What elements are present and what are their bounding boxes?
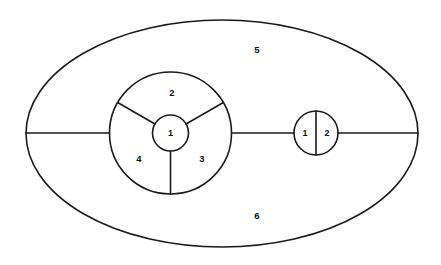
spoke-upper-right — [186, 103, 223, 125]
face-label-2: 2 — [169, 87, 174, 98]
face-label-5: 5 — [254, 44, 260, 55]
face-label-3: 3 — [199, 153, 204, 164]
right-circle-label-1: 1 — [302, 128, 307, 138]
diagram-canvas: 2 4 3 5 6 1 1 2 — [0, 0, 441, 265]
spoke-upper-left — [118, 103, 155, 125]
face-label-4: 4 — [136, 153, 142, 164]
hub-label-1: 1 — [168, 128, 173, 138]
face-label-6: 6 — [254, 210, 259, 221]
right-circle-label-2: 2 — [324, 128, 329, 138]
planar-graph-figure: 2 4 3 5 6 1 1 2 — [0, 0, 441, 265]
